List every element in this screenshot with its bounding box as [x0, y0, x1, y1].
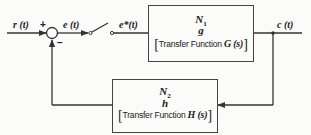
forward-block-g: N1 g [Transfer Function G (s)]: [148, 5, 254, 62]
sampled-error-label: e*(t): [119, 20, 138, 30]
feedback-block-transfer-function: [Transfer Function H (s)]: [113, 109, 217, 123]
switch-terminal-right: [110, 31, 113, 34]
plus-sign: +: [40, 20, 46, 30]
error-signal-label: e (t): [63, 20, 79, 30]
sampler-switch: [92, 23, 108, 32]
summing-junction: [47, 28, 58, 39]
block-diagram: r (t) + − e (t) e*(t) c (t) N1 g [Transf…: [0, 0, 311, 135]
forward-block-symbol: g: [149, 25, 253, 36]
switch-terminal-left: [89, 31, 92, 34]
feedback-block-h: N2 h [Transfer Function H (s)]: [112, 79, 218, 133]
forward-block-transfer-function: [Transfer Function G (s)]: [149, 38, 253, 52]
output-signal-label: c (t): [277, 20, 293, 30]
minus-sign: −: [57, 38, 63, 48]
input-signal-label: r (t): [13, 20, 29, 30]
feedback-block-symbol: h: [113, 98, 217, 109]
